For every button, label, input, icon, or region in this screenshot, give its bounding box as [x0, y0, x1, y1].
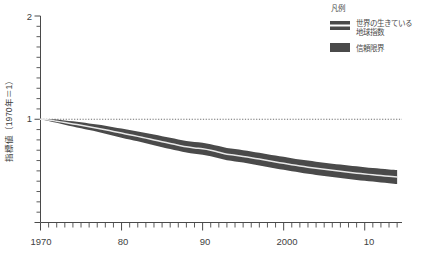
- living-planet-index-chart: 2 1 指標値（1970年＝1） 1970 80 90 2000 10 凡例 世…: [0, 0, 421, 267]
- legend-swatch-index: [330, 21, 350, 30]
- legend-swatch-confidence: [330, 43, 350, 52]
- x-tick-label-90: 90: [200, 236, 211, 247]
- y-tick-label-1: 1: [27, 113, 32, 124]
- legend-title: 凡例: [331, 3, 345, 13]
- legend-label-index-line1: 世界の生きている: [356, 18, 412, 28]
- y-axis-label: 指標値（1970年＝1）: [4, 76, 14, 163]
- legend-label-index-line2: 地球指数: [356, 27, 385, 37]
- x-tick-label-2000: 2000: [276, 236, 297, 247]
- y-tick-label-2: 2: [27, 11, 32, 22]
- legend-label-confidence: 信頼限界: [356, 43, 385, 53]
- x-tick-label-80: 80: [118, 236, 129, 247]
- x-tick-label-10: 10: [364, 236, 375, 247]
- chart-canvas: 2 1 指標値（1970年＝1） 1970 80 90 2000 10 凡例 世…: [0, 0, 421, 267]
- x-tick-label-1970: 1970: [30, 236, 51, 247]
